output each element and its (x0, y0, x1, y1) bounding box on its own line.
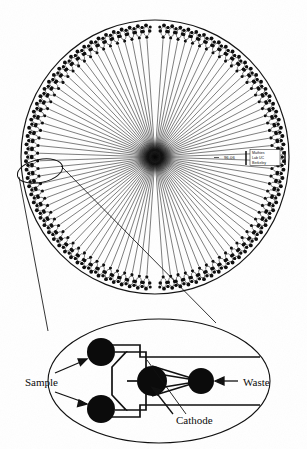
unit-cell-well (175, 284, 178, 287)
unit-cell-well (265, 101, 269, 105)
unit-cell-well (268, 212, 271, 215)
unit-cell-well (243, 61, 247, 65)
unit-cell-well (190, 280, 193, 283)
unit-cell-well (245, 246, 248, 249)
unit-cell-well (227, 262, 230, 265)
unit-cell-well (264, 92, 267, 95)
unit-cell-well (159, 281, 163, 285)
unit-cell-well (149, 26, 152, 29)
wafer-center-hub (132, 135, 178, 179)
unit-cell-well (198, 277, 201, 280)
unit-cell-well (145, 275, 148, 278)
unit-cell-well (162, 36, 165, 39)
unit-cell-well (30, 163, 34, 167)
unit-cell-well (162, 275, 165, 278)
unit-cell-well (30, 188, 33, 191)
unit-cell-well (277, 188, 280, 191)
unit-cell-well (149, 285, 152, 288)
unit-cell-well (138, 37, 141, 40)
unit-cell-well (158, 26, 161, 29)
waste-well (188, 368, 214, 394)
unit-cell-well (43, 87, 47, 91)
unit-cell-well (80, 49, 83, 52)
unit-cell-well (94, 40, 97, 43)
unit-cell-well (280, 147, 283, 150)
unit-cell-well (62, 65, 65, 68)
unit-cell-well (101, 37, 104, 40)
unit-cell-well (33, 115, 36, 118)
unit-cell-well (74, 257, 77, 260)
figure-root: 96-06 Mathies Lab UC Berkeley (0, 0, 307, 449)
unit-cell-well (57, 67, 61, 71)
unit-cell-well (82, 265, 86, 269)
unit-cell-well (138, 274, 141, 277)
unit-cell-well (82, 45, 86, 49)
unit-cell-well (166, 26, 169, 29)
unit-cell-well (63, 61, 67, 65)
unit-cell-well (27, 164, 30, 167)
unit-cell-well (233, 54, 236, 57)
unit-cell-well (278, 180, 281, 183)
unit-cell-well (278, 131, 281, 134)
unit-cell-well (26, 156, 29, 159)
unit-cell-well (52, 237, 56, 241)
unit-cell-well (224, 265, 228, 269)
unit-cell-well (43, 92, 46, 95)
unit-cell-well (227, 49, 230, 52)
unit-cell-well (165, 281, 169, 285)
unit-cell-well (272, 204, 275, 207)
unit-cell-well (281, 155, 284, 158)
unit-cell-well (33, 196, 36, 199)
unit-cell-well (205, 37, 208, 40)
unit-cell-well (68, 252, 71, 255)
watermark-line-1: Mathies (252, 151, 265, 155)
unit-cell-well (220, 45, 223, 48)
radial-wafer-figure: 96-06 Mathies Lab UC Berkeley (0, 0, 307, 449)
unit-cell-well (182, 29, 185, 32)
unit-cell-well (251, 240, 254, 243)
cathode-label: Cathode (176, 414, 213, 426)
unit-cell-well (239, 59, 242, 62)
unit-cell-well (132, 27, 135, 30)
unit-cell-well (280, 139, 283, 142)
unit-cell-well (213, 271, 216, 274)
unit-cell-well (217, 270, 221, 274)
waste-label: Waste (243, 376, 270, 388)
unit-cell-well (47, 80, 51, 84)
unit-cell-well (190, 31, 193, 34)
unit-cell-well (264, 210, 268, 214)
unit-cell-well (251, 71, 254, 74)
unit-cell-well (217, 40, 221, 44)
unit-cell-well (277, 123, 280, 126)
unit-cell-well (274, 115, 277, 118)
unit-cell-well (51, 78, 54, 81)
unit-cell-well (51, 233, 54, 236)
unit-cell-well (140, 281, 144, 285)
unit-cell-well (176, 38, 179, 41)
unit-cell-well (268, 99, 271, 102)
unit-cell-well (36, 204, 39, 207)
unit-cell-well (213, 40, 216, 43)
unit-cell-well (141, 26, 144, 29)
unit-cell-well (159, 29, 163, 32)
unit-cell-well (182, 282, 185, 285)
unit-cell-well (89, 40, 93, 44)
sample-label: Sample (25, 376, 58, 388)
watermark-line-2: Lab UC (252, 156, 265, 160)
scale-label: 96-06 (224, 155, 235, 160)
unit-cell-well (264, 223, 268, 227)
unit-cell-well (231, 50, 235, 54)
unit-cell-well (39, 108, 43, 112)
unit-cell-well (260, 85, 263, 88)
sample-well-bottom (87, 395, 115, 423)
unit-cell-well (30, 123, 33, 126)
unit-cell-well (274, 196, 277, 199)
unit-cell-well (264, 87, 268, 91)
unit-cell-well (198, 34, 201, 37)
unit-cell-well (231, 261, 235, 265)
unit-cell-well (27, 147, 30, 150)
unit-cell-well (206, 274, 209, 277)
unit-cell-well (264, 219, 267, 222)
unit-cell-well (117, 31, 120, 34)
unit-cell-well (133, 284, 136, 287)
